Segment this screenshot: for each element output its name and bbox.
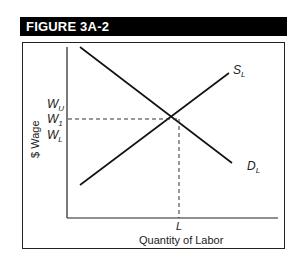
- y-axis-label: $ Wage: [29, 120, 41, 158]
- demand-curve: [80, 47, 232, 163]
- supply-curve: [80, 73, 229, 185]
- demand-label: DL: [247, 159, 260, 175]
- x-tick-l: L: [176, 220, 182, 232]
- x-axis-label: Quantity of Labor: [139, 234, 224, 246]
- y-tick-wu: WU: [47, 97, 64, 113]
- supply-label: SL: [233, 63, 245, 79]
- labor-market-chart: WU W1 WL SL DL L Quantity of Labor $ Wag…: [0, 0, 304, 265]
- y-tick-w1: W1: [47, 112, 63, 128]
- y-tick-wl: WL: [47, 128, 63, 144]
